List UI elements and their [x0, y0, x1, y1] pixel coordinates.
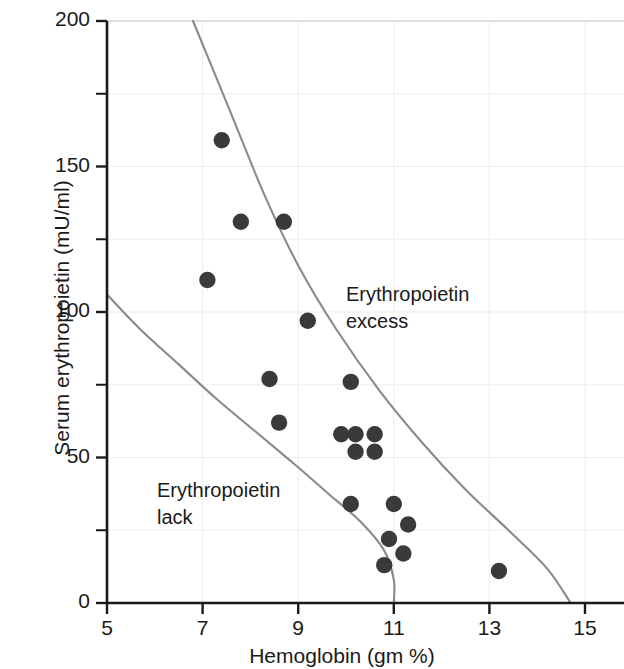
data-point: [386, 496, 402, 512]
scatter-chart-figure: 050100150200579111315 Serum erythropoiet…: [0, 0, 624, 669]
x-axis-tick-label: 15: [565, 616, 605, 640]
data-point: [343, 496, 359, 512]
x-axis-tick-label: 13: [469, 616, 509, 640]
annotation-erythropoietin-lack: Erythropoietinlack: [157, 477, 280, 531]
y-axis-title: Serum erythropoietin (mU/ml): [50, 18, 74, 618]
data-point: [347, 443, 363, 459]
data-point: [400, 516, 416, 532]
data-point: [347, 426, 363, 442]
data-point: [261, 371, 277, 387]
annotation-lack-line2: lack: [157, 506, 193, 528]
annotation-excess-line1: Erythropoietin: [346, 283, 469, 305]
data-point: [233, 214, 249, 230]
x-axis-title: Hemoglobin (gm %): [0, 644, 624, 668]
data-point: [366, 426, 382, 442]
data-point: [366, 443, 382, 459]
annotation-erythropoietin-excess: Erythropoietinexcess: [346, 281, 469, 335]
data-point: [376, 557, 392, 573]
annotation-lack-line1: Erythropoietin: [157, 479, 280, 501]
annotation-excess-line2: excess: [346, 310, 408, 332]
data-point: [214, 132, 230, 148]
data-point: [491, 563, 507, 579]
data-point: [199, 272, 215, 288]
data-point: [300, 313, 316, 329]
data-point: [333, 426, 349, 442]
plot-canvas: [0, 0, 624, 669]
x-axis-tick-label: 11: [374, 616, 414, 640]
x-axis-tick-label: 5: [87, 616, 127, 640]
data-point: [381, 531, 397, 547]
x-axis-tick-label: 7: [183, 616, 223, 640]
data-point: [395, 545, 411, 561]
data-point: [271, 414, 287, 430]
data-point: [343, 374, 359, 390]
x-axis-tick-label: 9: [278, 616, 318, 640]
data-point: [276, 214, 292, 230]
